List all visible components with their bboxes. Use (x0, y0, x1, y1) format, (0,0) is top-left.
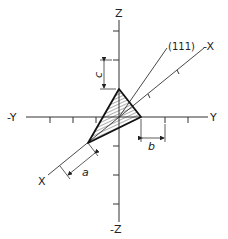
z-neg-label: -Z (110, 223, 122, 236)
y-pos-label: Y (209, 111, 217, 124)
crystal-plane-diagram: Z -Z -Y Y -X X (111) c b a (0, 0, 228, 239)
z-pos-label: Z (115, 7, 123, 20)
x-pos-label: X (38, 175, 46, 188)
x-neg-label: -X (203, 40, 214, 53)
plane-label: (111) (168, 41, 195, 52)
dimension-c-label: c (92, 72, 105, 78)
dimension-b-label: b (148, 140, 155, 153)
dimension-a-label: a (82, 166, 89, 179)
dimension-b (141, 119, 165, 142)
y-neg-label: -Y (7, 111, 17, 124)
